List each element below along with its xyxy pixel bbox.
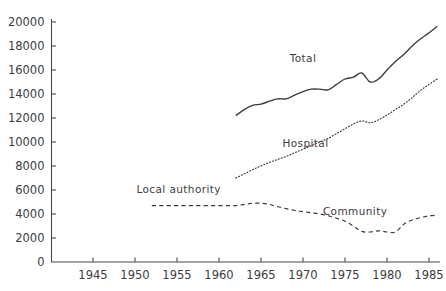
x-axis-tick-label: 1980 xyxy=(372,268,401,282)
chart-canvas: 0200040006000800010000120001400016000180… xyxy=(0,0,446,291)
y-axis-tick-label: 2000 xyxy=(15,231,44,245)
line-chart: 0200040006000800010000120001400016000180… xyxy=(0,0,446,291)
y-axis-tick-label: 4000 xyxy=(15,207,44,221)
y-axis-tick-label: 12000 xyxy=(8,111,45,125)
y-axis-tick-label: 14000 xyxy=(8,87,45,101)
x-axis-tick-label: 1970 xyxy=(288,268,317,282)
series-label-total: Total xyxy=(289,52,317,64)
series-label-community: Community xyxy=(323,205,387,217)
x-axis-tick-label: 1985 xyxy=(414,268,443,282)
x-axis-tick-label: 1975 xyxy=(330,268,359,282)
chart-axes xyxy=(52,19,441,262)
y-axis-tick-label: 20000 xyxy=(8,15,45,29)
y-axis-tick-label: 6000 xyxy=(15,183,44,197)
series-label-local-authority: Local authority xyxy=(136,183,220,195)
y-axis-tick-label: 10000 xyxy=(8,135,45,149)
series-line-community xyxy=(152,203,438,233)
y-axis-tick-label: 0 xyxy=(37,255,44,269)
y-axis-tick-label: 18000 xyxy=(8,39,45,53)
series-line-hospital xyxy=(236,79,438,178)
x-axis-tick-label: 1965 xyxy=(246,268,275,282)
series-label-hospital: Hospital xyxy=(282,137,328,149)
y-axis-tick-label: 8000 xyxy=(15,159,44,173)
x-axis-tick-label: 1950 xyxy=(120,268,149,282)
x-axis-tick-label: 1960 xyxy=(204,268,233,282)
x-axis-tick-label: 1955 xyxy=(162,268,191,282)
x-axis-tick-label: 1945 xyxy=(78,268,107,282)
y-axis-tick-label: 16000 xyxy=(8,63,45,77)
